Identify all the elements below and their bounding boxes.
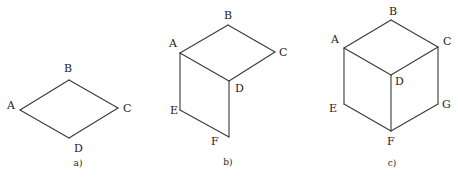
- edge-a-ab: [20, 80, 69, 110]
- vertex-label-b-c: C: [279, 46, 287, 59]
- edge-a-da: [20, 110, 69, 138]
- edge-c-ef: [344, 104, 391, 131]
- caption-b: b): [223, 157, 232, 167]
- edge-a-bc: [69, 80, 118, 108]
- vertex-label-a-b: B: [64, 62, 72, 75]
- edge-c-ab: [344, 20, 391, 48]
- edge-b-ef: [180, 110, 229, 137]
- edge-b-cd: [229, 52, 275, 81]
- vertex-label-c-g: G: [442, 98, 451, 111]
- figure-c-cube: ABCDEFGc): [329, 5, 451, 168]
- vertex-label-c-f: F: [387, 135, 395, 148]
- edge-c-da: [344, 48, 391, 75]
- vertex-label-a-c: C: [123, 102, 131, 115]
- vertex-label-b-d: D: [235, 82, 244, 95]
- vertex-label-c-a: A: [330, 33, 340, 46]
- edge-b-ab: [180, 25, 228, 53]
- vertex-label-c-d: D: [395, 75, 404, 88]
- vertex-label-b-a: A: [168, 37, 178, 50]
- figure-a-rhombus: ABCDa): [6, 62, 131, 168]
- caption-c: c): [388, 158, 397, 168]
- vertex-label-c-e: E: [329, 102, 337, 115]
- edge-c-gf: [391, 104, 438, 131]
- vertex-label-c-b: B: [389, 5, 397, 18]
- vertex-label-b-b: B: [224, 9, 232, 22]
- edge-a-cd: [69, 108, 118, 138]
- vertex-label-a-a: A: [6, 99, 16, 112]
- vertex-label-b-f: F: [211, 135, 219, 148]
- vertex-label-a-d: D: [74, 142, 83, 155]
- vertex-label-b-e: E: [170, 104, 178, 117]
- caption-a: a): [74, 158, 83, 168]
- edge-b-bc: [228, 25, 275, 52]
- figure-b-two-faces: ABCDEFb): [168, 9, 287, 167]
- edge-c-bc: [391, 20, 438, 47]
- vertex-label-c-c: C: [443, 35, 451, 48]
- edge-c-cd: [391, 47, 438, 75]
- edge-b-da: [180, 53, 229, 81]
- cube-construction-figure: ABCDa) ABCDEFb) ABCDEFGc): [0, 0, 458, 177]
